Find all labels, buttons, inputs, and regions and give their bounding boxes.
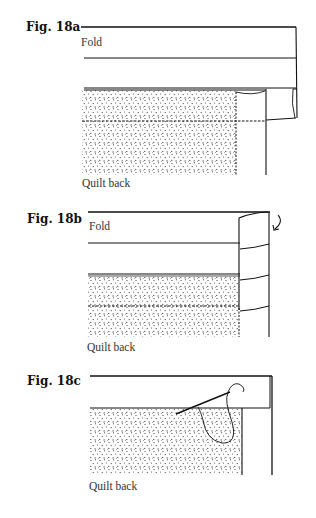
fold-direction-arrow-icon — [275, 215, 280, 229]
figure-title-18b: Fig. 18b — [27, 212, 82, 226]
figure-title-18c: Fig. 18c — [27, 374, 81, 388]
strip-fold-curve-1 — [240, 244, 269, 249]
fold-tab-bottom — [266, 118, 296, 120]
binding-diagram — [0, 0, 316, 518]
figure-18a — [81, 27, 297, 175]
fold-tab-curve — [292, 89, 295, 118]
figure-18c — [90, 376, 272, 475]
fold-strip-left-edge — [239, 212, 268, 310]
corner-flap — [236, 91, 265, 94]
strip-fold-curve-2 — [240, 275, 269, 280]
quilt-back-area — [82, 90, 236, 175]
strip-fold-curve-3 — [240, 306, 269, 311]
caption-18b: Quilt back — [87, 341, 135, 353]
quilt-back-area — [88, 277, 239, 337]
fold-label-18b: Fold — [89, 220, 110, 232]
thread-loop — [228, 384, 244, 392]
caption-18c: Quilt back — [89, 480, 137, 492]
caption-18a: Quilt back — [82, 177, 130, 189]
fold-label-18a: Fold — [81, 36, 102, 48]
figure-18b — [88, 212, 280, 337]
fold-right-edge — [296, 27, 297, 118]
figure-title-18a: Fig. 18a — [26, 20, 80, 34]
